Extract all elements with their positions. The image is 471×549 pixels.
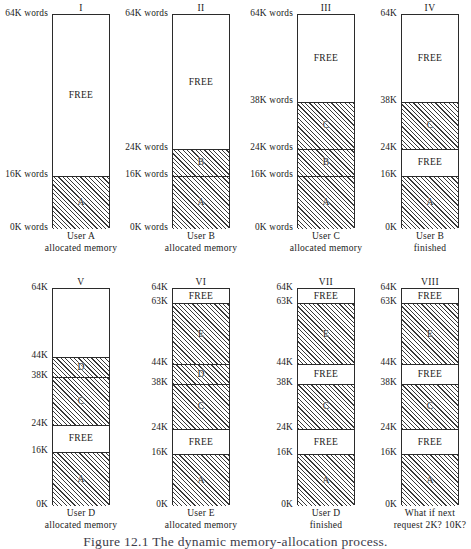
memory-band-free: FREE [53, 425, 109, 452]
memory-band-free: FREE [402, 289, 458, 303]
band-divider [173, 303, 229, 304]
axis-tick-label: 64K [151, 283, 168, 293]
axis-tick-label: 16K words [250, 170, 293, 180]
band-divider [298, 303, 354, 304]
axis-tick-label: 64K [276, 283, 293, 293]
band-label: FREE [314, 291, 338, 301]
panel-caption: User Dallocated memory [12, 508, 150, 531]
axis-tick-label: 24K [31, 419, 48, 429]
band-label: B [323, 157, 330, 167]
panel-caption-line2: finished [361, 243, 471, 255]
memory-map-iii: IIIFREECBA64K words38K words24K words16K… [297, 14, 355, 228]
axis-tick-label: 16K [151, 449, 168, 459]
band-label: A [77, 474, 84, 484]
band-divider [173, 429, 229, 430]
axis-tick-label: 64K [380, 9, 397, 19]
panel-title: I [52, 3, 110, 13]
band-divider [298, 384, 354, 385]
band-divider [53, 357, 109, 358]
panel-caption: User Eallocated memory [132, 508, 270, 531]
panel-caption-line1: User D [12, 508, 150, 520]
band-label: FREE [189, 437, 213, 447]
band-divider [402, 149, 458, 150]
band-label: A [426, 197, 433, 207]
axis-tick-label: 63K [276, 297, 293, 307]
memory-band-free: FREE [53, 15, 109, 176]
band-divider [173, 364, 229, 365]
band-label: FREE [418, 437, 442, 447]
axis-tick-label: 24K [380, 423, 397, 433]
band-divider [402, 454, 458, 455]
panel-title: II [172, 3, 230, 13]
panel-caption-line1: What if next [361, 508, 471, 520]
memory-band-user-c: C [173, 384, 229, 429]
axis-tick-label: 38K words [250, 96, 293, 106]
band-label: C [198, 401, 205, 411]
memory-band-free: FREE [298, 364, 354, 383]
band-label: A [197, 475, 204, 485]
panel-caption-line2: request 2K? 10K? [361, 520, 471, 532]
memory-band-user-a: A [53, 176, 109, 230]
band-label: A [322, 475, 329, 485]
memory-map-vi: VIFREEEDCFREEA64K63K44K38K24K16K0KUser E… [172, 288, 230, 505]
band-label: E [323, 329, 329, 339]
band-label: FREE [314, 53, 338, 63]
band-divider [402, 303, 458, 304]
memory-band-free: FREE [173, 15, 229, 149]
memory-band-free: FREE [402, 429, 458, 455]
memory-band-user-a: A [53, 452, 109, 506]
band-label: FREE [418, 369, 442, 379]
memory-band-user-b: B [298, 149, 354, 176]
memory-band-free: FREE [402, 364, 458, 383]
band-label: B [198, 157, 205, 167]
axis-tick-label: 24K [276, 423, 293, 433]
memory-band-user-a: A [402, 454, 458, 506]
memory-band-user-a: A [402, 176, 458, 230]
memory-box: FREEA [52, 14, 110, 228]
memory-band-user-c: C [402, 384, 458, 429]
band-divider [53, 452, 109, 453]
axis-tick-label: 64K [31, 283, 48, 293]
memory-band-free [53, 289, 109, 357]
band-label: C [427, 120, 434, 130]
band-label: E [198, 329, 204, 339]
memory-band-free: FREE [298, 289, 354, 303]
panel-caption-line2: allocated memory [12, 520, 150, 532]
band-divider [53, 425, 109, 426]
band-divider [402, 364, 458, 365]
axis-tick-label: 64K words [250, 9, 293, 19]
band-label: FREE [189, 291, 213, 301]
memory-box: FREECBA [297, 14, 355, 228]
axis-tick-label: 16K words [125, 170, 168, 180]
axis-tick-label: 64K words [5, 9, 48, 19]
memory-band-free: FREE [173, 289, 229, 303]
band-divider [298, 429, 354, 430]
panel-title: V [52, 277, 110, 287]
panel-caption-line2: allocated memory [12, 243, 150, 255]
axis-tick-label: 38K [380, 378, 397, 388]
axis-tick-label: 24K [380, 143, 397, 153]
memory-band-free: FREE [298, 429, 354, 455]
memory-box: FREEEDCFREEA [172, 288, 230, 505]
panel-caption-line2: allocated memory [132, 243, 270, 255]
panel-caption-line2: allocated memory [132, 520, 270, 532]
panel-caption: What if nextrequest 2K? 10K? [361, 508, 471, 531]
memory-band-user-d: D [173, 364, 229, 383]
band-divider [298, 176, 354, 177]
band-divider [402, 384, 458, 385]
axis-tick-label: 16K [380, 449, 397, 459]
band-label: E [427, 329, 433, 339]
axis-tick-label: 38K [151, 378, 168, 388]
memory-band-user-a: A [298, 454, 354, 506]
band-divider [173, 454, 229, 455]
band-label: FREE [69, 90, 93, 100]
band-label: FREE [69, 433, 93, 443]
memory-box: FREEEFREECFREEA [401, 288, 459, 505]
figure-caption: Figure 12.1 The dynamic memory-allocatio… [0, 534, 471, 549]
memory-band-user-a: A [173, 176, 229, 230]
memory-band-free: FREE [402, 15, 458, 102]
axis-tick-label: 44K [31, 351, 48, 361]
axis-tick-label: 44K [380, 358, 397, 368]
band-label: C [323, 401, 330, 411]
